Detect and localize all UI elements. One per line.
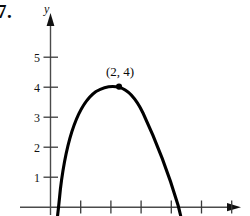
vertex-point-label: (2, 4) [106,64,134,79]
y-tick-label-3: 3 [34,111,40,125]
y-tick-label-2: 2 [34,141,40,155]
y-tick-label-4: 4 [34,81,40,95]
parabola-curve [58,87,181,216]
math-figure: 7. y 1 2 3 4 5 [0,0,250,216]
y-tick-label-5: 5 [34,51,40,65]
y-tick-label-group: 1 2 3 4 5 [34,51,40,185]
y-tick-label-1: 1 [34,171,40,185]
graph-canvas: y 1 2 3 4 5 ( [0,0,250,216]
x-axis-arrowhead [227,203,241,211]
y-axis-label: y [43,2,50,16]
vertex-point-marker [116,84,122,90]
